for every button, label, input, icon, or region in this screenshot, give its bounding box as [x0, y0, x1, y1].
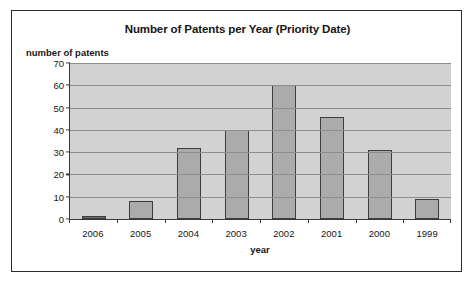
plot-area-wrapper: 706050403020100	[69, 63, 451, 219]
y-tick-label-50: 50	[53, 102, 64, 113]
x-tick-slot-2001: 2001	[308, 219, 356, 245]
x-tick-mark-2005	[117, 219, 118, 223]
x-tick-slot-2005: 2005	[117, 219, 165, 245]
bar-2004[interactable]	[177, 148, 201, 219]
bar-slot-2003	[213, 63, 261, 219]
bar-1999[interactable]	[415, 199, 439, 219]
gridline-20	[70, 174, 451, 175]
y-axis-label: number of patents	[26, 47, 109, 58]
gridline-70	[70, 63, 451, 64]
bar-slot-2000	[356, 63, 404, 219]
gridline-50	[70, 108, 451, 109]
y-tick-mark-40	[66, 129, 70, 130]
y-tick-label-70: 70	[53, 58, 64, 69]
chart-frame: Number of Patents per Year (Priority Dat…	[11, 10, 462, 272]
x-tick-label-2000: 2000	[356, 228, 404, 239]
x-tick-slot-2000: 2000	[356, 219, 404, 245]
y-tick-mark-50	[66, 107, 70, 108]
gridline-10	[70, 197, 451, 198]
x-tick-label-2006: 2006	[69, 228, 117, 239]
bar-slot-2001	[308, 63, 356, 219]
y-tick-mark-20	[66, 174, 70, 175]
x-tick-mark-2001	[308, 219, 309, 223]
x-axis-end-tick	[450, 219, 451, 223]
x-tick-slot-2004: 2004	[165, 219, 213, 245]
bar-2001[interactable]	[320, 117, 344, 220]
x-tick-slot-2006: 2006	[69, 219, 117, 245]
gridline-40	[70, 130, 451, 131]
y-tick-label-0: 0	[59, 214, 64, 225]
x-tick-mark-1999	[403, 219, 404, 223]
x-tick-mark-2002	[260, 219, 261, 223]
x-tick-slot-1999: 1999	[403, 219, 451, 245]
x-tick-mark-2006	[69, 219, 70, 223]
x-tick-label-2004: 2004	[165, 228, 213, 239]
gridline-30	[70, 152, 451, 153]
y-tick-mark-30	[66, 152, 70, 153]
x-tick-label-2002: 2002	[260, 228, 308, 239]
x-tick-mark-2003	[212, 219, 213, 223]
bar-slot-1999	[403, 63, 451, 219]
x-tick-label-2001: 2001	[308, 228, 356, 239]
x-axis: 20062005200420032002200120001999	[69, 219, 451, 245]
x-tick-label-2005: 2005	[117, 228, 165, 239]
x-tick-mark-2000	[356, 219, 357, 223]
x-axis-label: year	[69, 244, 451, 255]
bar-2005[interactable]	[129, 201, 153, 219]
bar-slot-2002	[261, 63, 309, 219]
x-tick-label-1999: 1999	[403, 228, 451, 239]
plot-area: 706050403020100	[69, 63, 451, 219]
x-tick-slot-2002: 2002	[260, 219, 308, 245]
bar-slot-2006	[70, 63, 118, 219]
gridline-60	[70, 85, 451, 86]
y-tick-label-60: 60	[53, 80, 64, 91]
y-tick-mark-70	[66, 62, 70, 63]
bar-slot-2005	[118, 63, 166, 219]
y-tick-label-40: 40	[53, 124, 64, 135]
x-tick-slot-2003: 2003	[212, 219, 260, 245]
y-tick-mark-60	[66, 85, 70, 86]
bar-series	[70, 63, 451, 219]
bar-slot-2004	[165, 63, 213, 219]
chart-title: Number of Patents per Year (Priority Dat…	[12, 23, 463, 35]
y-tick-label-10: 10	[53, 191, 64, 202]
x-tick-mark-2004	[165, 219, 166, 223]
y-tick-label-20: 20	[53, 169, 64, 180]
bar-2000[interactable]	[368, 150, 392, 219]
x-tick-label-2003: 2003	[212, 228, 260, 239]
y-tick-mark-10	[66, 196, 70, 197]
y-tick-label-30: 30	[53, 147, 64, 158]
